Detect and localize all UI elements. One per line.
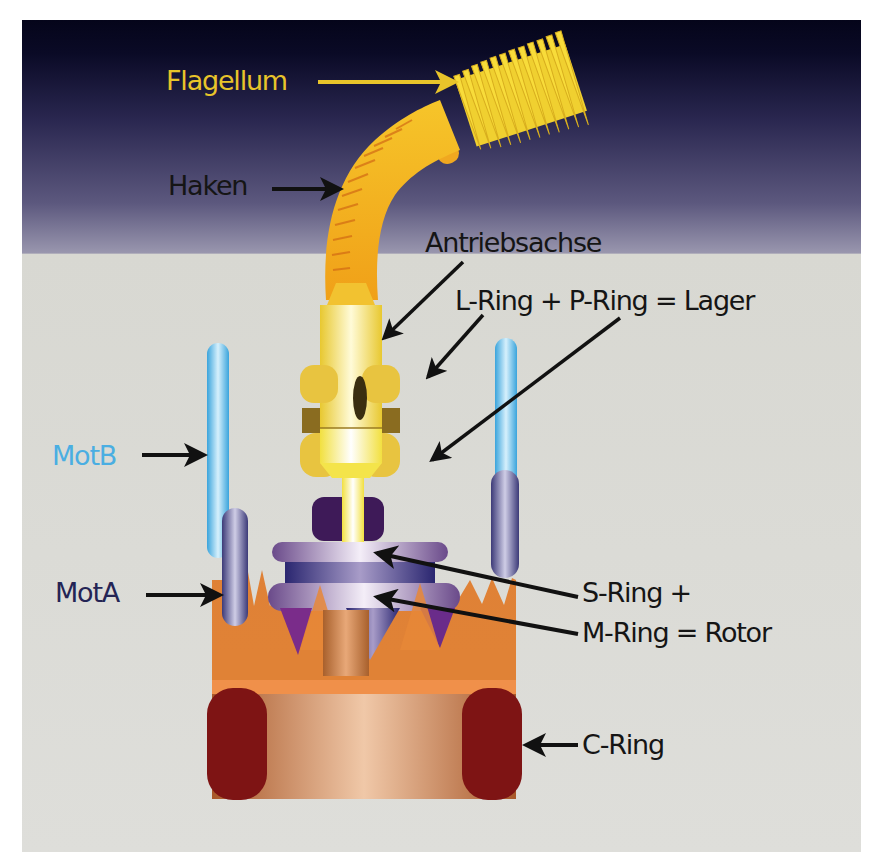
mota-right — [491, 470, 519, 578]
label-c-ring: C-Ring — [582, 729, 664, 760]
label-flagellum: Flagellum — [166, 65, 287, 96]
mota-left — [222, 508, 248, 626]
label-haken: Haken — [168, 170, 247, 201]
label-motb: MotB — [52, 440, 116, 471]
label-rotor-line2: M-Ring = Rotor — [582, 617, 773, 648]
s-ring — [272, 542, 448, 562]
flagellar-motor-diagram: Flagellum Haken Antriebsachse L-Ring + P… — [0, 0, 881, 857]
label-antriebsachse: Antriebsachse — [425, 227, 602, 258]
rotor-core — [323, 610, 369, 676]
shaft-slot — [353, 376, 367, 420]
label-rotor-line1: S-Ring + — [582, 577, 691, 608]
l-ring — [300, 365, 338, 403]
label-lager: L-Ring + P-Ring = Lager — [455, 285, 756, 316]
label-mota: MotA — [55, 577, 121, 608]
